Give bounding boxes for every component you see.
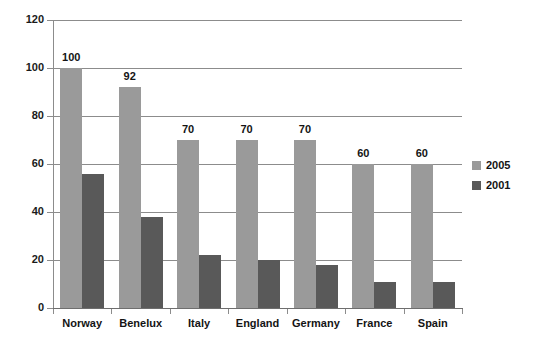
bar	[352, 164, 374, 308]
legend-item[interactable]: 2001	[472, 175, 534, 195]
y-axis-tick-label: 60	[2, 158, 44, 169]
bar-value-label: 92	[110, 71, 150, 82]
bar	[141, 217, 163, 308]
bar	[258, 260, 280, 308]
y-axis-tick-label-wrap: 60	[0, 158, 44, 169]
x-axis-category-label: Italy	[170, 317, 228, 330]
x-axis-category-label: England	[228, 317, 286, 330]
x-axis-tick	[345, 309, 346, 314]
x-axis-category-label: Benelux	[111, 317, 169, 330]
y-axis-tick-label: 100	[2, 62, 44, 73]
legend-swatch-icon	[472, 161, 481, 170]
bar-value-label: 70	[168, 124, 208, 135]
x-axis-line	[53, 308, 463, 309]
bar-value-label: 60	[402, 148, 442, 159]
bar-value-label: 70	[227, 124, 267, 135]
x-axis-category-label: Spain	[404, 317, 462, 330]
y-axis-tick-label-wrap: 100	[0, 62, 44, 73]
x-axis-category-label: Norway	[53, 317, 111, 330]
y-axis-tick-label-wrap: 0	[0, 302, 44, 313]
bar	[433, 282, 455, 308]
bar	[82, 174, 104, 308]
y-axis-tick-label: 120	[2, 14, 44, 25]
bar	[411, 164, 433, 308]
x-axis-tick	[228, 309, 229, 314]
x-axis-tick	[462, 309, 463, 314]
y-axis-tick-label-wrap: 20	[0, 254, 44, 265]
bar	[199, 255, 221, 308]
y-axis-tick-label: 20	[2, 254, 44, 265]
bar	[236, 140, 258, 308]
bar	[374, 282, 396, 308]
x-axis-tick	[53, 309, 54, 314]
plot-area	[53, 20, 462, 308]
bar-value-label: 100	[51, 52, 91, 63]
bar	[316, 265, 338, 308]
bar-chart: 020406080100120 100927070706060 NorwayBe…	[0, 0, 538, 338]
y-axis-tick-label-wrap: 40	[0, 206, 44, 217]
bar-value-label: 60	[343, 148, 383, 159]
x-axis-tick	[287, 309, 288, 314]
bar	[177, 140, 199, 308]
y-axis-tick-label: 80	[2, 110, 44, 121]
x-axis-category-label: Germany	[287, 317, 345, 330]
legend-item[interactable]: 2005	[472, 155, 534, 175]
y-axis-tick-label: 0	[2, 302, 44, 313]
bar-value-label: 70	[285, 124, 325, 135]
x-axis-tick	[404, 309, 405, 314]
x-axis-tick	[111, 309, 112, 314]
legend-swatch-icon	[472, 181, 481, 190]
x-axis-category-label: France	[345, 317, 403, 330]
y-axis-tick-label-wrap: 120	[0, 14, 44, 25]
bar	[119, 87, 141, 308]
chart-legend: 20052001	[472, 155, 534, 195]
bar	[60, 68, 82, 308]
x-axis-tick	[170, 309, 171, 314]
y-axis-tick-label-wrap: 80	[0, 110, 44, 121]
legend-label: 2005	[486, 160, 510, 171]
legend-label: 2001	[486, 180, 510, 191]
y-axis-tick-label: 40	[2, 206, 44, 217]
bar	[294, 140, 316, 308]
